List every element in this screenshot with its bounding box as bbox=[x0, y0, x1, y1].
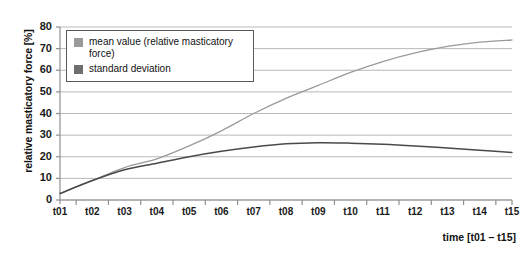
legend-label-standard-deviation: standard deviation bbox=[89, 63, 171, 75]
legend-swatch-standard-deviation bbox=[74, 65, 83, 74]
legend-item-standard-deviation: standard deviation bbox=[74, 63, 247, 75]
legend-item-mean-value: mean value (relative masticatory force) bbox=[74, 36, 247, 60]
chart-legend: mean value (relative masticatory force) … bbox=[66, 30, 254, 82]
legend-label-mean-value: mean value (relative masticatory force) bbox=[89, 36, 247, 60]
legend-swatch-mean-value bbox=[74, 38, 83, 47]
series-line-standard-deviation bbox=[60, 143, 512, 194]
chart-container: relative masticatory force [%] time [t01… bbox=[0, 0, 532, 255]
